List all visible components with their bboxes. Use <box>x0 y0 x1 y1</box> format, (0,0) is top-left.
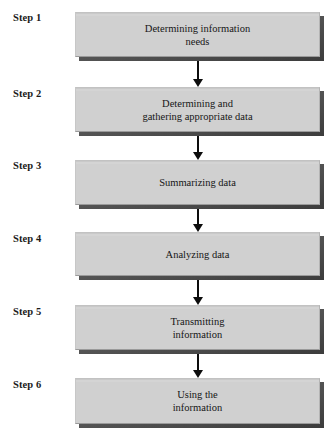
process-box-3: Summarizing data <box>75 160 320 205</box>
process-box-6-text: Using the information <box>165 388 231 414</box>
process-box-6: Using the information <box>75 378 320 424</box>
arrow-step4-step5 <box>193 280 203 305</box>
arrow-head-icon <box>193 297 203 305</box>
process-box-6-wrapper: Using the information <box>75 378 320 424</box>
step-label-2: Step 2 <box>13 88 71 99</box>
arrow-step1-step2 <box>193 61 203 87</box>
arrow-step3-step4 <box>193 209 203 232</box>
step-label-5: Step 5 <box>13 306 71 317</box>
process-box-2: Determining and gathering appropriate da… <box>75 87 320 132</box>
arrow-shaft <box>197 209 199 224</box>
process-box-5-text: Transmitting information <box>163 315 233 341</box>
process-box-2-text: Determining and gathering appropriate da… <box>134 97 260 123</box>
process-box-4-text: Analyzing data <box>158 248 238 261</box>
process-box-1-text: Determining information needs <box>137 22 258 48</box>
step-label-1: Step 1 <box>13 12 71 23</box>
arrow-shaft <box>197 136 199 152</box>
process-box-5: Transmitting information <box>75 305 320 350</box>
arrow-shaft <box>197 61 199 79</box>
step-label-4: Step 4 <box>13 233 71 244</box>
process-box-1-wrapper: Determining information needs <box>75 12 320 57</box>
process-box-3-wrapper: Summarizing data <box>75 160 320 205</box>
process-box-1: Determining information needs <box>75 12 320 57</box>
process-box-3-text: Summarizing data <box>151 176 244 189</box>
arrow-shaft <box>197 280 199 297</box>
arrow-head-icon <box>193 79 203 87</box>
process-box-4: Analyzing data <box>75 232 320 276</box>
arrow-head-icon <box>193 224 203 232</box>
step-label-3: Step 3 <box>13 160 71 171</box>
arrow-step5-step6 <box>193 354 203 378</box>
arrow-head-icon <box>193 152 203 160</box>
flowchart-canvas: Step 1 Determining information needs Ste… <box>0 0 335 434</box>
process-box-5-wrapper: Transmitting information <box>75 305 320 350</box>
step-label-6: Step 6 <box>13 379 71 390</box>
arrow-shaft <box>197 354 199 370</box>
process-box-4-wrapper: Analyzing data <box>75 232 320 276</box>
process-box-2-wrapper: Determining and gathering appropriate da… <box>75 87 320 132</box>
arrow-step2-step3 <box>193 136 203 160</box>
arrow-head-icon <box>193 370 203 378</box>
